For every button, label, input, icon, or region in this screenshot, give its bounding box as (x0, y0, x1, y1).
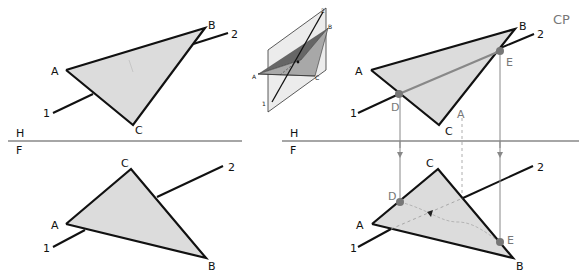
point-d-label: D (388, 190, 396, 203)
vertex-b-label: B (208, 19, 216, 32)
point-e-label: E (507, 234, 514, 247)
point-e (496, 238, 504, 246)
pictorial-view: A B C 1 2 (252, 7, 332, 112)
fold-line-left: H F (8, 127, 242, 157)
right-front-view: A B C 1 2 D E (350, 141, 544, 273)
arrow-mark-label: A (457, 108, 465, 121)
point-e (496, 47, 504, 55)
svg-text:B: B (328, 23, 332, 30)
svg-text:F: F (16, 144, 22, 157)
line-end-1-label: 1 (350, 107, 357, 120)
point-e-label: E (506, 56, 513, 69)
svg-text:1: 1 (262, 100, 266, 107)
vertex-c-label: C (121, 157, 129, 170)
svg-text:H: H (290, 127, 298, 140)
svg-text:H: H (16, 127, 24, 140)
diagram-canvas: H F H F A B C 1 2 A B C 1 2 (0, 0, 583, 276)
vertex-c-label: C (135, 124, 143, 137)
svg-text:F: F (290, 144, 296, 157)
point-d-label: D (391, 101, 399, 114)
point-d (396, 198, 404, 206)
svg-text:C: C (315, 74, 319, 81)
vertex-a-label: A (51, 219, 59, 232)
line-end-2-label: 2 (228, 161, 235, 174)
point-d (395, 90, 403, 98)
line-end-1-label: 1 (43, 107, 50, 120)
line-end-2-label: 2 (537, 28, 544, 41)
left-front-view: A B C 1 2 (43, 157, 235, 273)
vertex-b-label: B (519, 20, 527, 33)
vertex-a-label: A (51, 65, 59, 78)
line-end-1-label: 1 (350, 242, 357, 255)
vertex-b-label: B (516, 260, 524, 273)
line-end-2-label: 2 (537, 161, 544, 174)
vertex-b-label: B (208, 260, 216, 273)
vertex-c-label: C (426, 157, 434, 170)
left-top-view: A B C 1 2 (43, 19, 238, 137)
vertex-a-label: A (356, 219, 364, 232)
cutting-plane-annotation: CP (553, 12, 570, 27)
svg-text:2: 2 (321, 7, 325, 14)
line-end-2-label: 2 (231, 28, 238, 41)
vertex-a-label: A (355, 65, 363, 78)
vertex-c-label: C (445, 125, 453, 138)
fold-line-right: H F (282, 127, 579, 157)
line-end-1-label: 1 (43, 242, 50, 255)
svg-text:A: A (252, 73, 257, 80)
right-top-view: A B C 1 2 D E CP A (350, 12, 570, 220)
